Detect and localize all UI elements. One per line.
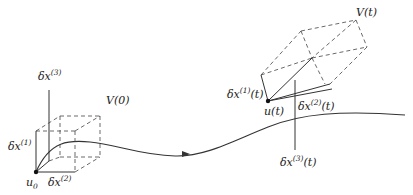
right-volume-parallelepiped	[261, 20, 367, 150]
origin-point-ut	[266, 99, 270, 103]
origin-point-u0	[34, 170, 38, 174]
left-origin-label: u0	[26, 176, 38, 191]
left-axis1-label: δx(1)	[8, 138, 32, 153]
phase-space-volume-diagram: δx(3) V(0) δx(1) u0 δx(2) V(t) δx(1)(t) …	[0, 0, 413, 195]
left-volume-cube	[36, 90, 100, 172]
trajectory-curve	[36, 113, 405, 172]
left-axis3-label: δx(3)	[38, 68, 62, 83]
right-axis3-label: δx(3)(t)	[280, 154, 316, 169]
right-origin-label: u(t)	[264, 105, 284, 118]
right-axis1-label: δx(1)(t)	[227, 86, 263, 101]
right-axis2-label: δx(2)(t)	[298, 98, 334, 113]
left-volume-label: V(0)	[106, 94, 130, 107]
right-volume-label: V(t)	[356, 6, 377, 19]
left-axis2-label: δx(2)	[48, 174, 72, 189]
